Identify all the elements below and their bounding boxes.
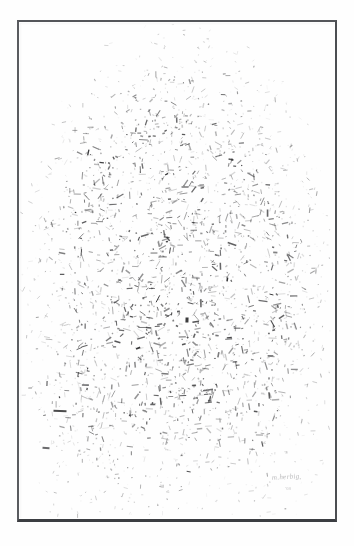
artwork-root: m.herbig '08 Untitled (mass of short str… (0, 0, 354, 546)
picture-frame: m.herbig '08 (17, 20, 337, 522)
artist-signature-date: '08 (285, 486, 291, 491)
stroke-field-drawing (19, 22, 335, 519)
artist-signature: m.herbig (271, 472, 299, 481)
